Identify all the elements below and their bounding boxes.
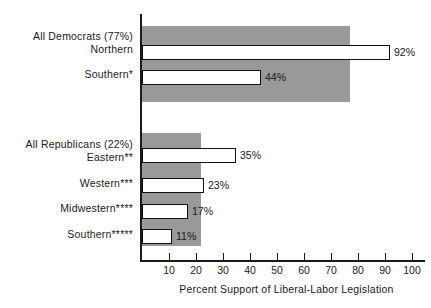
bar-value-western-republicans: 23%: [208, 178, 229, 193]
tick-mark-80: [358, 253, 359, 261]
bar-northern-democrats: [142, 45, 390, 60]
tick-label-60: 60: [298, 264, 310, 277]
tick-label-100: 100: [403, 264, 421, 277]
tick-mark-10: [169, 253, 170, 261]
tick-mark-100: [412, 253, 413, 261]
bar-southern-democrats: [142, 70, 261, 85]
tick-label-20: 20: [190, 264, 202, 277]
bar-midwestern-republicans: [142, 204, 188, 219]
category-label-all-republicans: All Republicans (22%): [26, 138, 134, 151]
tick-mark-20: [196, 253, 197, 261]
category-label-eastern-republicans: Eastern**: [87, 151, 133, 164]
category-label-column: All Democrats (77%) Northern Southern* A…: [0, 0, 133, 308]
bar-value-northern-democrats: 92%: [394, 45, 415, 60]
category-label-western-republicans: Western***: [80, 177, 133, 190]
category-label-southern-republicans: Southern*****: [67, 228, 133, 241]
tick-label-70: 70: [325, 264, 337, 277]
category-label-all-democrats: All Democrats (77%): [33, 30, 133, 43]
bar-value-eastern-republicans: 35%: [240, 148, 261, 163]
bar-value-midwestern-republicans: 17%: [192, 204, 213, 219]
group-band-all-democrats: [142, 26, 350, 102]
bar-value-southern-republicans: 11%: [176, 229, 196, 244]
tick-mark-70: [331, 253, 332, 261]
tick-label-10: 10: [163, 264, 175, 277]
tick-label-90: 90: [379, 264, 391, 277]
category-axis-line: [140, 14, 142, 262]
tick-mark-60: [304, 253, 305, 261]
tick-mark-40: [250, 253, 251, 261]
tick-label-30: 30: [217, 264, 229, 277]
category-label-midwestern-republicans: Midwestern****: [60, 202, 133, 215]
tick-label-50: 50: [271, 264, 283, 277]
tick-mark-50: [277, 253, 278, 261]
bar-value-southern-democrats: 44%: [265, 70, 286, 85]
bar-eastern-republicans: [142, 148, 236, 163]
category-label-southern-democrats: Southern*: [84, 68, 133, 81]
tick-mark-90: [385, 253, 386, 261]
bar-western-republicans: [142, 178, 204, 193]
tick-label-80: 80: [352, 264, 364, 277]
tick-mark-30: [223, 253, 224, 261]
tick-label-40: 40: [244, 264, 256, 277]
bar-southern-republicans: [142, 229, 172, 244]
category-label-northern-democrats: Northern: [91, 43, 133, 56]
horizontal-bar-chart: All Democrats (77%) Northern Southern* A…: [0, 0, 431, 308]
x-axis-title: Percent Support of Liberal-Labor Legisla…: [142, 283, 431, 296]
value-axis-line: [140, 260, 425, 262]
